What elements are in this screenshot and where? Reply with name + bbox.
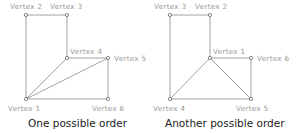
vertex-label-3: Vertex 3 xyxy=(154,2,186,11)
vertex-label-2: Vertex 2 xyxy=(10,2,42,11)
vertex-label-1: Vertex 1 xyxy=(213,47,245,56)
vertex-label-5: Vertex 5 xyxy=(114,54,146,63)
diagram-another-possible-order: Vertex 1Vertex 2Vertex 3Vertex 4Vertex 5… xyxy=(153,2,289,113)
vertex-point-1 xyxy=(24,97,27,100)
vertex-label-6: Vertex 6 xyxy=(92,104,124,113)
vertex-label-4: Vertex 4 xyxy=(70,47,102,56)
vertex-point-3 xyxy=(168,13,171,16)
vertex-label-1: Vertex 1 xyxy=(8,104,40,113)
vertex-label-4: Vertex 4 xyxy=(153,104,185,113)
vertex-point-6 xyxy=(106,97,109,100)
vertex-label-6: Vertex 6 xyxy=(257,54,289,63)
vertex-label-3: Vertex 3 xyxy=(50,2,82,11)
polygon-vertex-order-diagram: Vertex 1Vertex 2Vertex 3Vertex 4Vertex 5… xyxy=(0,0,299,133)
vertex-point-6 xyxy=(249,56,252,59)
vertex-point-5 xyxy=(106,56,109,59)
vertex-point-4 xyxy=(168,97,171,100)
vertex-point-4 xyxy=(65,56,68,59)
caption-another-possible-order: Another possible order xyxy=(165,117,285,129)
vertex-point-2 xyxy=(24,13,27,16)
vertex-point-2 xyxy=(208,13,211,16)
caption-one-possible-order: One possible order xyxy=(28,117,128,129)
vertex-point-5 xyxy=(249,97,252,100)
diagram-one-possible-order: Vertex 1Vertex 2Vertex 3Vertex 4Vertex 5… xyxy=(8,2,146,113)
edge-1-5 xyxy=(26,58,108,99)
edge-1-4 xyxy=(170,58,210,99)
vertex-point-1 xyxy=(208,56,211,59)
vertex-point-3 xyxy=(65,13,68,16)
edge-1-4 xyxy=(26,58,67,99)
vertex-label-5: Vertex 5 xyxy=(236,104,268,113)
vertex-label-2: Vertex 2 xyxy=(195,2,227,11)
edge-1-5 xyxy=(210,58,251,99)
